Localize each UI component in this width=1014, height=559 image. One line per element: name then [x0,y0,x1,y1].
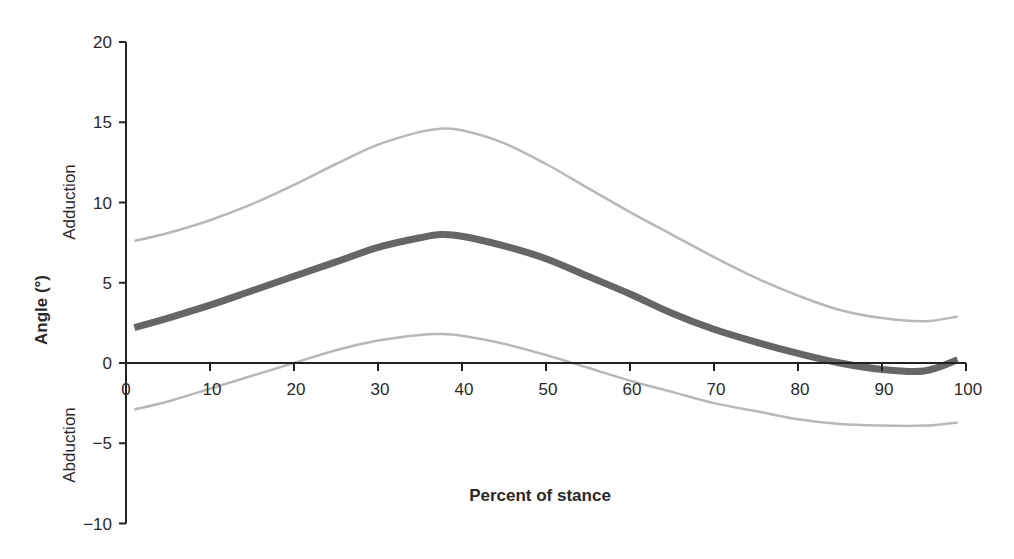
y-tick-label: −10 [83,515,112,534]
x-tick-label: 80 [791,380,810,399]
x-tick-label: 40 [455,380,474,399]
x-tick-label: 0 [121,380,130,399]
line-chart: 20151050−5−100102030405060708090100 Perc… [0,0,1014,559]
adduction-label: Adduction [60,164,79,240]
y-tick-label: 5 [103,274,112,293]
x-tick-label: 100 [954,380,982,399]
y-tick-label: 15 [93,113,112,132]
x-tick-label: 50 [539,380,558,399]
y-tick-label: −5 [93,434,112,453]
x-tick-label: 60 [623,380,642,399]
y-tick-label: 0 [103,354,112,373]
x-tick-label: 10 [203,380,222,399]
x-axis-title: Percent of stance [469,486,611,505]
series-mean [134,234,957,371]
y-tick-label: 10 [93,194,112,213]
x-tick-label: 30 [371,380,390,399]
abduction-label: Abduction [60,407,79,483]
axes: 20151050−5−100102030405060708090100 [83,33,982,534]
y-axis-title: Angle (°) [32,275,51,345]
axis-labels: Percent of stance Angle (°) Adduction Ab… [32,164,611,505]
x-tick-label: 70 [707,380,726,399]
y-tick-label: 20 [93,33,112,52]
x-tick-label: 90 [875,380,894,399]
x-tick-label: 20 [287,380,306,399]
